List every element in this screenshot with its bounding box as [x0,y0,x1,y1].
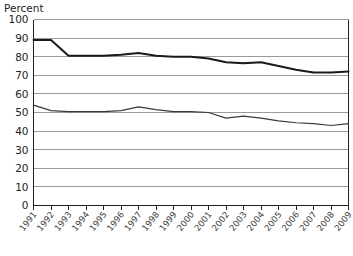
x-axis-tick-label: 2004 [245,210,266,233]
x-axis-tick-label: 1992 [35,210,56,233]
x-axis-tick-labels: 1991199219931994199519961997199819992000… [17,210,353,233]
x-axis-tick-label: 1991 [17,210,38,233]
x-axis-tick-label: 1996 [105,210,126,233]
x-axis-tick-label: 2000 [175,210,196,233]
y-axis-tick-label: 10 [15,181,28,193]
y-axis-tick-label: 100 [8,13,28,25]
line-chart-plot: 0102030405060708090100 19911992199319941… [0,0,353,256]
y-axis-tick-label: 50 [15,106,28,118]
y-axis-tick-label: 70 [15,69,28,81]
x-axis-tick-label: 2006 [280,210,301,233]
x-axis-tick-label: 1994 [70,210,91,233]
y-axis-tick-label: 20 [15,162,28,174]
x-axis-tick-label: 2003 [227,210,248,233]
y-axis-tick-label: 40 [15,125,28,137]
x-axis-tick-label: 1995 [87,210,108,233]
x-axis-tick-label: 2001 [192,210,213,233]
chart-container: Percent 0102030405060708090100 199119921… [0,0,353,256]
y-axis-tick-label: 90 [15,32,28,44]
series-line-lower-series [34,105,349,125]
x-axis-tick-label: 2005 [262,210,283,233]
x-axis-tick-label: 1993 [52,210,73,233]
y-axis-tick-labels: 0102030405060708090100 [8,13,28,211]
y-axis-tick-label: 60 [15,88,28,100]
x-axis-tick-label: 2002 [210,210,231,233]
x-axis-tick-label: 1999 [157,210,178,233]
x-axis-tick-label: 2007 [297,210,318,233]
x-axis-tick-label: 2008 [315,210,336,233]
x-axis-tick-label: 1998 [140,210,161,233]
x-axis [34,20,349,210]
y-axis-tick-label: 30 [15,144,28,156]
y-axis-tick-label: 80 [15,51,28,63]
x-axis-tick-label: 1997 [122,210,143,233]
x-axis-tick-label: 2009 [332,210,353,233]
gridlines [34,20,349,187]
y-axis-tick-label: 0 [22,199,29,211]
